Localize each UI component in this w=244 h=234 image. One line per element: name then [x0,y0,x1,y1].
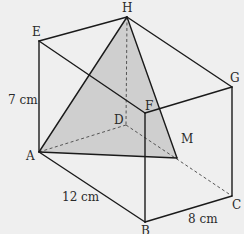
vertex-label-f: F [145,99,153,113]
vertex-label-a: A [25,149,35,163]
diagram-canvas: H E G F D M A C B 7 cm 12 cm 8 cm [0,0,244,234]
edge-dc-hidden [126,125,232,196]
vertex-label-m: M [181,132,193,146]
vertex-label-b: B [141,224,150,234]
dimension-label-width: 8 cm [188,212,218,226]
vertex-label-d: D [114,113,124,127]
vertex-label-c: C [232,198,241,212]
vertex-label-g: G [230,71,240,85]
dimension-label-length: 12 cm [62,190,100,204]
cuboid-diagram: H E G F D M A C B 7 cm 12 cm 8 cm [0,0,244,234]
edge-ab [39,152,145,222]
vertex-label-e: E [32,25,41,39]
vertex-label-h: H [122,1,132,15]
edge-gf [145,87,232,113]
dimension-label-height: 7 cm [8,93,38,107]
